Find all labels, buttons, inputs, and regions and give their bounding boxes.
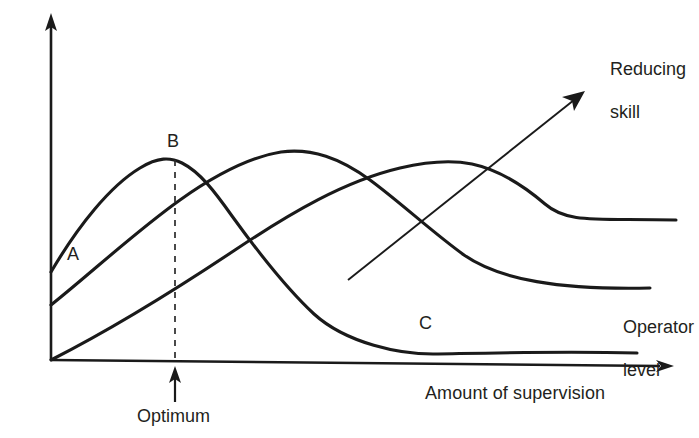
operator-level-label: Operator level <box>603 296 694 402</box>
productivity-supervision-chart: Productivity Amount of supervision A B C… <box>0 0 699 438</box>
optimum-label: Optimum <box>137 406 210 427</box>
y-axis <box>45 13 57 360</box>
y-axis-title: Productivity <box>0 36 10 130</box>
reducing-skill-label-line2: skill <box>610 102 640 122</box>
curve-b-path <box>51 151 650 305</box>
optimum-arrow <box>169 366 181 402</box>
operator-level-label-line2: level <box>623 360 660 380</box>
x-axis-title: Amount of supervision <box>425 383 605 404</box>
curve-c-path <box>51 162 676 360</box>
x-axis <box>51 360 674 372</box>
curve-a-label: A <box>67 244 79 265</box>
curve-c-label: C <box>419 313 432 334</box>
reducing-skill-label-line1: Reducing <box>610 59 686 79</box>
reducing-skill-label: Reducing skill <box>590 38 686 144</box>
operator-level-label-line1: Operator <box>623 317 694 337</box>
reducing-skill-arrow <box>348 91 585 280</box>
curve-b-label: B <box>167 131 179 152</box>
x-axis-line <box>51 360 660 366</box>
